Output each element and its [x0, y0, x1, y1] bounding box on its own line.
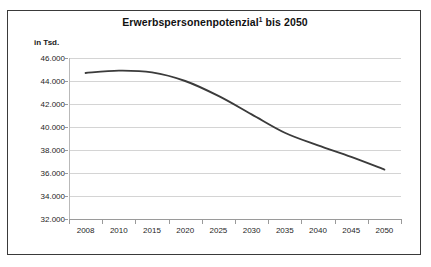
y-axis-tick-labels: 46.00044.00042.00040.00038.00036.00034.0… — [8, 58, 65, 219]
y-axis-tick-mark — [65, 127, 68, 128]
x-axis-tick-label: 2035 — [276, 226, 294, 235]
y-axis-tick-mark — [65, 150, 68, 151]
x-axis-tick-mark — [335, 220, 336, 224]
x-axis-tick-mark — [135, 220, 136, 224]
x-axis-tick-label: 2030 — [243, 226, 261, 235]
x-axis-tick-label: 2008 — [77, 226, 95, 235]
x-axis-tick-label: 2025 — [209, 226, 227, 235]
x-axis-tick-mark — [102, 220, 103, 224]
y-axis-tick-mark — [65, 173, 68, 174]
x-axis-tick-label: 2010 — [110, 226, 128, 235]
x-axis-tick-mark — [268, 220, 269, 224]
x-axis-tick-mark — [169, 220, 170, 224]
y-axis-tick-label: 44.000 — [13, 77, 65, 86]
chart-title-main: Erwerbspersonenpotenzial — [122, 16, 259, 28]
chart-frame: Erwerbspersonenpotenzial1 bis 2050 in Ts… — [7, 10, 421, 255]
x-axis-tick-labels: 2008201020152020202520302035204020452050 — [69, 226, 402, 240]
y-axis-line — [69, 58, 70, 220]
x-axis-tick-mark — [301, 220, 302, 224]
y-axis-tick-mark — [65, 219, 68, 220]
y-axis-tick-mark — [65, 104, 68, 105]
x-axis-tick-mark — [235, 220, 236, 224]
chart-title-suffix: bis 2050 — [263, 16, 308, 28]
y-axis-tick-mark — [65, 58, 68, 59]
y-axis-tick-label: 34.000 — [13, 192, 65, 201]
x-axis-tick-mark — [401, 220, 402, 224]
x-axis-tick-label: 2045 — [342, 226, 360, 235]
y-axis-tick-label: 32.000 — [13, 215, 65, 224]
plot-area — [69, 58, 401, 219]
y-axis-tick-label: 38.000 — [13, 146, 65, 155]
chart-figure: Erwerbspersonenpotenzial1 bis 2050 in Ts… — [0, 0, 431, 267]
x-axis-tick-mark — [202, 220, 203, 224]
x-axis-tick-mark — [368, 220, 369, 224]
y-axis-unit-label: in Tsd. — [34, 38, 59, 47]
chart-title: Erwerbspersonenpotenzial1 bis 2050 — [8, 16, 422, 28]
x-axis-tick-label: 2040 — [309, 226, 327, 235]
series-line-erwerbspersonenpotenzial — [69, 58, 401, 219]
x-axis-tick-mark — [69, 220, 70, 224]
y-axis-tick-mark — [65, 81, 68, 82]
y-axis-tick-mark — [65, 196, 68, 197]
x-axis-tick-label: 2020 — [176, 226, 194, 235]
y-axis-tick-label: 46.000 — [13, 54, 65, 63]
x-axis-tick-label: 2015 — [143, 226, 161, 235]
y-axis-tick-label: 36.000 — [13, 169, 65, 178]
x-axis-tick-marks — [69, 220, 402, 224]
y-axis-tick-label: 42.000 — [13, 100, 65, 109]
x-axis-tick-label: 2050 — [375, 226, 393, 235]
y-axis-tick-label: 40.000 — [13, 123, 65, 132]
